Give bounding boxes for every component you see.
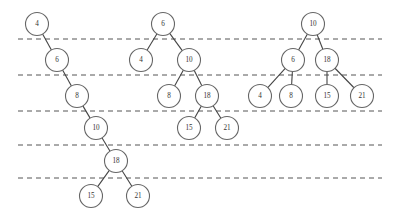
tree-node: 6 (282, 49, 305, 72)
tree-node: 18 (196, 85, 219, 108)
tree-node: 4 (26, 13, 49, 36)
node-label: 4 (139, 56, 143, 64)
tree-edge (43, 34, 52, 50)
tree-edge (170, 33, 183, 50)
node-label: 10 (92, 124, 100, 132)
tree-node: 8 (158, 85, 181, 108)
tree-node: 6 (152, 13, 175, 36)
tree-edge (317, 35, 323, 50)
tree-node: 4 (249, 85, 272, 108)
tree-edge (213, 106, 221, 118)
tree-node: 18 (105, 150, 128, 173)
node-label: 18 (203, 92, 211, 100)
tree-node: 6 (46, 49, 69, 72)
node-label: 15 (185, 124, 193, 132)
tree-edge (299, 34, 308, 50)
node-label: 15 (87, 192, 95, 200)
tree-node: 4 (130, 49, 153, 72)
node-label: 6 (161, 20, 165, 28)
node-label: 4 (35, 20, 39, 28)
node-label: 8 (167, 92, 171, 100)
tree-edge (292, 71, 293, 84)
node-label: 6 (291, 56, 295, 64)
tree-edge (63, 70, 72, 86)
node-label: 15 (323, 92, 331, 100)
node-label: 8 (289, 92, 293, 100)
node-label: 18 (112, 157, 120, 165)
node-label: 21 (358, 92, 366, 100)
tree-node: 8 (66, 85, 89, 108)
tree-node: 10 (85, 117, 108, 140)
node-label: 10 (185, 56, 193, 64)
node-label: 8 (75, 92, 79, 100)
tree-edge (175, 70, 184, 86)
tree-node: 15 (316, 85, 339, 108)
tree-node: 10 (178, 49, 201, 72)
tree-node: 15 (178, 117, 201, 140)
tree-node: 10 (302, 13, 325, 36)
tree-edge (268, 68, 285, 87)
tree-node: 21 (351, 85, 374, 108)
tree-edge (83, 106, 90, 118)
node-label: 10 (309, 20, 317, 28)
tree-node: 21 (127, 185, 150, 208)
tree-node: 15 (80, 185, 103, 208)
tree-edge (147, 34, 157, 50)
tree-node: 8 (280, 85, 303, 108)
tree-edge (194, 70, 202, 85)
node-label: 4 (258, 92, 262, 100)
node-label: 18 (323, 56, 331, 64)
tree-edge (335, 68, 354, 88)
tree-edge (195, 106, 202, 118)
binary-tree-diagram: 468101815216410818152110618481521 (0, 0, 395, 219)
node-label: 21 (134, 192, 142, 200)
node-label: 21 (223, 124, 231, 132)
tree-node: 18 (316, 49, 339, 72)
diagram-canvas: 468101815216410818152110618481521 (0, 0, 395, 219)
tree-node: 21 (216, 117, 239, 140)
node-label: 6 (55, 56, 59, 64)
